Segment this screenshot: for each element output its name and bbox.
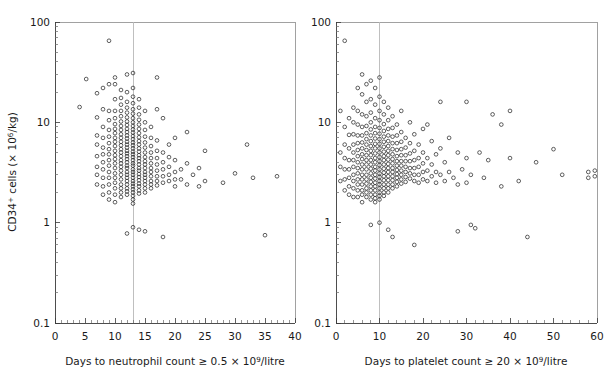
x-axis-title-right-group: Days to platelet count ≥ 20 × 109/litre bbox=[365, 355, 568, 368]
y-tick-label: 0.1 bbox=[33, 317, 50, 329]
x-tick-label: 10 bbox=[373, 330, 386, 342]
y-tick-label: 1 bbox=[324, 216, 331, 228]
figure-svg: 0.1110100 0510152025303540 0.1110100 010… bbox=[0, 0, 612, 378]
y-tick-label: 0.1 bbox=[314, 317, 331, 329]
scatter-figure-container: 0.1110100 0510152025303540 0.1110100 010… bbox=[0, 0, 612, 378]
x-tick-label: 40 bbox=[288, 330, 301, 342]
x-tick-label: 50 bbox=[547, 330, 560, 342]
y-tick-label: 1 bbox=[43, 216, 50, 228]
x-tick-label: 35 bbox=[258, 330, 271, 342]
x-tick-label: 20 bbox=[168, 330, 181, 342]
x-tick-label: 15 bbox=[138, 330, 151, 342]
y-tick-label: 100 bbox=[311, 16, 331, 28]
y-tick-label: 10 bbox=[37, 116, 50, 128]
x-tick-label: 5 bbox=[82, 330, 89, 342]
y-tick-label: 100 bbox=[30, 16, 50, 28]
x-tick-label: 20 bbox=[416, 330, 429, 342]
x-tick-label: 60 bbox=[590, 330, 603, 342]
x-axis-title-left-group: Days to neutrophil count ≥ 0.5 × 109/lit… bbox=[65, 355, 285, 368]
y-tick-label: 10 bbox=[318, 116, 331, 128]
x-tick-label: 30 bbox=[460, 330, 473, 342]
x-tick-label: 30 bbox=[228, 330, 241, 342]
x-axis-title-neutrophil: Days to neutrophil count ≥ 0.5 × 109/lit… bbox=[65, 355, 285, 368]
x-tick-label: 10 bbox=[108, 330, 121, 342]
figure-background bbox=[0, 0, 612, 378]
x-tick-label: 25 bbox=[198, 330, 211, 342]
y-axis-title: CD34+ cells (× 106/kg) bbox=[6, 112, 19, 232]
x-tick-label: 0 bbox=[52, 330, 59, 342]
y-axis-title-group: CD34+ cells (× 106/kg) bbox=[6, 112, 19, 232]
x-axis-title-platelet: Days to platelet count ≥ 20 × 109/litre bbox=[365, 355, 568, 368]
x-tick-label: 40 bbox=[503, 330, 516, 342]
x-tick-label: 0 bbox=[333, 330, 340, 342]
